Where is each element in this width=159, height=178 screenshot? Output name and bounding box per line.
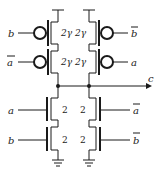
nmos-right-bottom <box>89 127 130 160</box>
circuit-svg: b a b a a b a b c 2γ 2γ 2γ 2γ 2 2 2 2 <box>0 0 159 178</box>
nmos-left-bottom <box>18 127 58 160</box>
input-label-a-nmos: a <box>8 105 14 116</box>
output-label-c: c <box>148 73 154 84</box>
nmos-left-top <box>18 86 58 127</box>
size-p1-left: 2γ <box>60 28 73 38</box>
pmos-left-bottom <box>18 49 58 86</box>
pmos-right-top <box>89 20 128 51</box>
input-label-b: b <box>8 28 14 39</box>
input-label-a-bar: a <box>7 57 13 68</box>
size-n2-left: 2 <box>62 135 68 145</box>
input-label-b-nmos: b <box>8 135 14 146</box>
pmos-right-bottom <box>89 49 128 86</box>
input-label-b-bar-nmos: b <box>133 135 139 146</box>
size-n2-right: 2 <box>80 135 86 145</box>
vdd-right-icon <box>83 10 95 22</box>
pmos-left-top <box>18 20 58 51</box>
nmos-right-top <box>89 86 130 127</box>
size-p2-left: 2γ <box>60 57 73 67</box>
ground-right-icon <box>83 160 95 166</box>
size-p2-right: 2γ <box>74 57 87 67</box>
input-label-a-right: a <box>131 57 137 68</box>
input-label-a-bar-nmos: a <box>133 105 139 116</box>
size-n1-right: 2 <box>80 105 86 115</box>
input-label-b-bar: b <box>131 28 137 39</box>
output-node <box>56 83 152 89</box>
size-p1-right: 2γ <box>74 28 87 38</box>
cmos-circuit-diagram: b a b a a b a b c 2γ 2γ 2γ 2γ 2 2 2 2 <box>0 0 159 178</box>
ground-left-icon <box>52 160 64 166</box>
vdd-left-icon <box>52 10 64 22</box>
size-n1-left: 2 <box>62 105 68 115</box>
